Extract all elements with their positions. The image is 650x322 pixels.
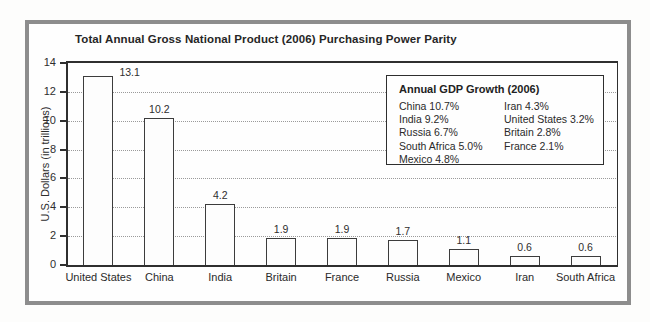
- bar-south-africa: [571, 256, 601, 265]
- bar-value-label-south-africa: 0.6: [562, 241, 610, 253]
- y-tick-6: [60, 177, 67, 179]
- legend-title: Annual GDP Growth (2006): [399, 83, 539, 95]
- bar-mexico: [449, 249, 479, 265]
- y-tick-label-6: 6: [28, 171, 56, 183]
- bar-value-label-britain: 1.9: [257, 223, 305, 235]
- y-tick-4: [60, 206, 67, 208]
- y-tick-12: [60, 91, 67, 93]
- y-tick-label-0: 0: [28, 258, 56, 270]
- legend-item: India 9.2%: [399, 113, 504, 126]
- legend-item: Russia 6.7%: [399, 126, 504, 139]
- y-tick-label-12: 12: [28, 85, 56, 97]
- bar-britain: [266, 238, 296, 265]
- legend-item: Iran 4.3%: [504, 100, 597, 113]
- legend-column-right: Iran 4.3% United States 3.2% Britain 2.8…: [504, 100, 597, 166]
- bar-iran: [510, 256, 540, 265]
- y-tick-0: [60, 264, 67, 266]
- y-tick-label-10: 10: [28, 114, 56, 126]
- bar-united-states: [83, 76, 113, 265]
- legend-column-left: China 10.7% India 9.2% Russia 6.7% South…: [399, 100, 504, 166]
- x-axis-label-south-africa: South Africa: [538, 271, 634, 283]
- y-tick-label-2: 2: [28, 229, 56, 241]
- y-tick-2: [60, 235, 67, 237]
- legend-item: France 2.1%: [504, 140, 597, 153]
- bar-value-label-russia: 1.7: [379, 225, 427, 237]
- y-tick-10: [60, 120, 67, 122]
- bar-china: [144, 118, 174, 265]
- y-tick-label-8: 8: [28, 143, 56, 155]
- bar-value-label-india: 4.2: [196, 189, 244, 201]
- y-tick-8: [60, 149, 67, 151]
- chart-figure: Total Annual Gross National Product (200…: [0, 0, 650, 322]
- bar-value-label-united-states: 13.1: [119, 66, 139, 78]
- chart-title: Total Annual Gross National Product (200…: [75, 33, 457, 45]
- legend-columns: China 10.7% India 9.2% Russia 6.7% South…: [399, 100, 597, 166]
- legend-item: Mexico 4.8%: [399, 153, 504, 166]
- gdp-growth-legend: Annual GDP Growth (2006) China 10.7% Ind…: [386, 75, 604, 165]
- bar-value-label-iran: 0.6: [501, 241, 549, 253]
- bar-india: [205, 204, 235, 265]
- bar-france: [327, 238, 357, 265]
- bar-russia: [388, 240, 418, 265]
- legend-item: South Africa 5.0%: [399, 140, 504, 153]
- y-tick-14: [60, 62, 67, 64]
- bar-value-label-mexico: 1.1: [440, 234, 488, 246]
- y-tick-label-14: 14: [28, 56, 56, 68]
- legend-item: China 10.7%: [399, 100, 504, 113]
- bar-value-label-china: 10.2: [135, 103, 183, 115]
- bar-value-label-france: 1.9: [318, 223, 366, 235]
- legend-item: United States 3.2%: [504, 113, 597, 126]
- legend-item: Britain 2.8%: [504, 126, 597, 139]
- y-tick-label-4: 4: [28, 200, 56, 212]
